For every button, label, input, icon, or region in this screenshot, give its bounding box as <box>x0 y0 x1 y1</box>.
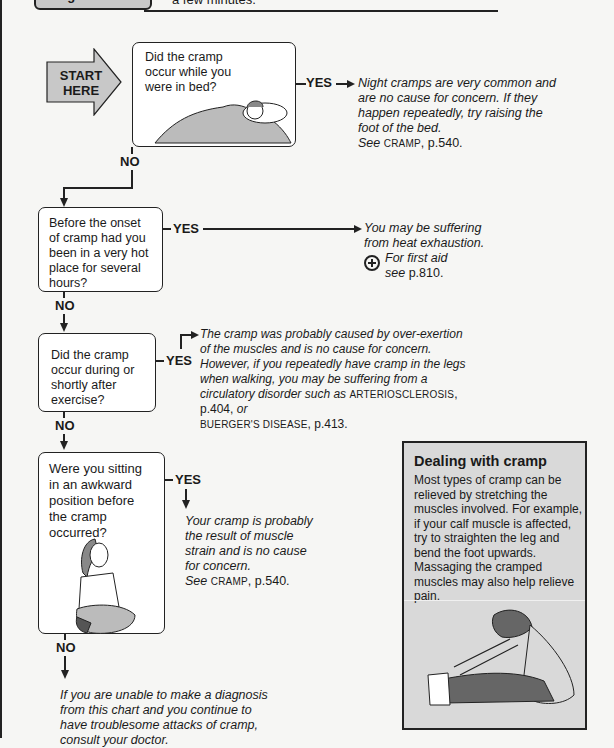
q3-answer: The cramp was probably caused by over-ex… <box>200 327 470 432</box>
q2-answer: You may be suffering from heat exhaustio… <box>364 221 494 251</box>
first-aid-label: For first aid <box>385 251 448 266</box>
q4-no-label: NO <box>56 640 76 655</box>
q4-see-ref-link[interactable]: CRAMP <box>211 576 248 587</box>
q3-ref-arteriosclerosis-link[interactable]: ARTERIOSCLEROSIS <box>349 389 454 400</box>
aside-body: Most types of cramp can be relieved by s… <box>414 473 584 604</box>
q3-no-label: NO <box>55 418 75 433</box>
start-label: START HERE <box>56 68 106 98</box>
q1-answer-text: Night cramps are very common and are no … <box>358 76 556 135</box>
q4-see-prefix: See <box>185 574 207 588</box>
q4-see-page: , p.540. <box>248 574 290 588</box>
q1-yes-connector <box>296 83 306 85</box>
q4-no-line <box>64 656 66 671</box>
question-box-1: Did the cramp occur while you were in be… <box>132 42 296 147</box>
left-margin-rule <box>0 0 2 738</box>
stretching-person-illustration <box>414 605 579 720</box>
q4-yes-label: YES <box>175 472 201 487</box>
q4-yes-arrow-icon <box>182 500 190 509</box>
q3-yes-label: YES <box>166 353 192 368</box>
q2-answer-text: You may be suffering from heat exhaustio… <box>364 221 484 250</box>
intro-text: a few minutes. <box>172 0 256 7</box>
q1-no-line-left <box>63 187 133 189</box>
first-aid-ref: For first aid see p.810. <box>385 251 448 281</box>
final-advice: If you are unable to make a diagnosis fr… <box>60 688 275 748</box>
q3-or: or <box>237 402 248 416</box>
q1-answer: Night cramps are very common and are no … <box>358 76 558 151</box>
start-here-arrow: START HERE <box>46 48 122 116</box>
q3-ref2-page: , p.413. <box>308 417 348 431</box>
aside-divider <box>404 600 585 601</box>
q1-yes-arrow-icon <box>347 80 355 88</box>
q1-see-prefix: See <box>358 136 380 150</box>
age-tag-label: all ages <box>42 0 90 3</box>
q3-yes-connector <box>156 360 164 362</box>
q1-no-connector <box>131 147 133 154</box>
question-box-2: Before the onset of cramp had you been i… <box>38 207 163 292</box>
q4-yes-connector <box>165 479 173 481</box>
first-aid-see: see <box>385 266 405 280</box>
q3-yes-arrow-icon <box>191 331 199 339</box>
q4-answer: Your cramp is probably the result of mus… <box>185 514 315 589</box>
q3-no-arrow-icon <box>60 441 68 450</box>
question-box-4: Were you sitting in an awkward position … <box>38 452 165 634</box>
q1-no-label: NO <box>120 154 140 169</box>
start-label-line1: START <box>56 68 106 83</box>
question-box-3: Did the cramp occur during or shortly af… <box>38 333 156 412</box>
header-rule <box>144 10 498 12</box>
q3-yes-line-up <box>180 334 182 349</box>
q1-no-line-down <box>131 170 133 188</box>
kneeling-person-illustration <box>73 537 137 637</box>
q1-yes-label: YES <box>306 75 332 90</box>
q2-no-arrow-icon <box>60 323 68 332</box>
question-text-3: Did the cramp occur during or shortly af… <box>51 348 143 408</box>
q4-no-arrow-icon <box>61 670 69 679</box>
q2-yes-line <box>203 228 355 230</box>
q1-no-arrow-icon <box>60 198 68 207</box>
q2-yes-connector <box>163 228 171 230</box>
question-text-4: Were you sitting in an awkward position … <box>49 461 154 541</box>
sleeping-person-illustration <box>153 81 293 145</box>
q1-see-page: , p.540. <box>421 136 463 150</box>
q2-yes-arrow-icon <box>354 225 362 233</box>
question-text-2: Before the onset of cramp had you been i… <box>49 216 152 291</box>
aside-title: Dealing with cramp <box>414 453 547 469</box>
q2-yes-label: YES <box>173 221 199 236</box>
age-tag: all ages <box>34 0 152 10</box>
q3-ref-buergers-link[interactable]: BUERGER'S DISEASE <box>200 419 308 430</box>
q1-see-ref-link[interactable]: CRAMP <box>384 138 421 149</box>
dealing-with-cramp-panel: Dealing with cramp Most types of cramp c… <box>402 441 587 730</box>
start-label-line2: HERE <box>56 83 106 98</box>
q4-answer-text: Your cramp is probably the result of mus… <box>185 514 313 573</box>
first-aid-plus-icon <box>364 255 380 271</box>
first-aid-page-link[interactable]: p.810. <box>409 266 444 280</box>
q2-no-label: NO <box>55 298 75 313</box>
